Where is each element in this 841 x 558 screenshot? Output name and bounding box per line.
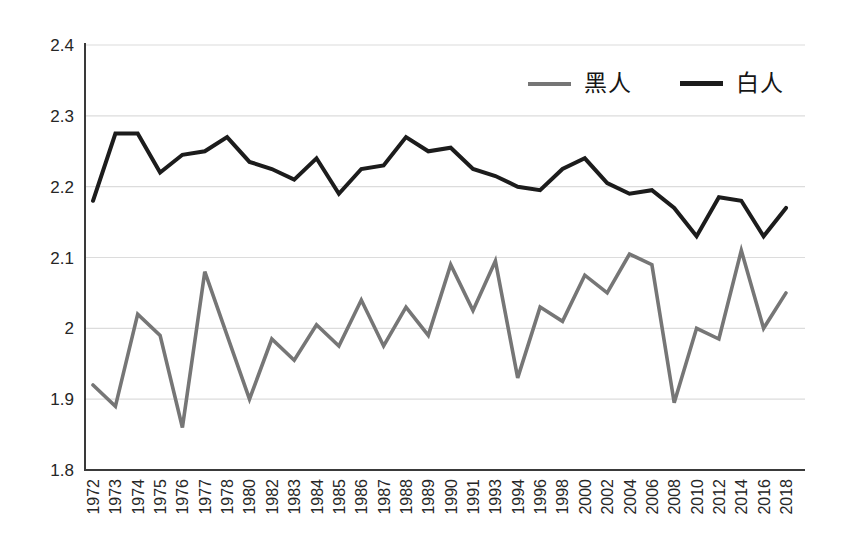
y-axis-tick-label: 2 [65, 319, 74, 338]
x-axis-tick-label: 1972 [85, 479, 102, 515]
x-axis-tick-label: 2014 [733, 479, 750, 515]
legend-line-swatch-gray [528, 82, 571, 86]
x-axis-tick-label: 1983 [286, 479, 303, 515]
x-axis-tick-label: 1989 [420, 479, 437, 515]
x-axis-tick-label: 2018 [778, 479, 795, 515]
legend-label-white-people: 白人 [736, 72, 784, 95]
x-axis-tick-label: 2008 [666, 479, 683, 515]
x-axis-tick-label: 2016 [756, 479, 773, 515]
x-axis-tick-label: 1993 [487, 479, 504, 515]
x-axis-tick-label: 2010 [689, 479, 706, 515]
x-axis-tick-label: 1980 [241, 479, 258, 515]
legend-item-white-people: 白人 [680, 72, 784, 95]
x-axis-tick-label: 1975 [152, 479, 169, 515]
x-axis-tick-label: 1988 [398, 479, 415, 515]
y-axis-tick-label: 1.9 [50, 390, 74, 409]
x-axis-tick-label: 1984 [309, 479, 326, 515]
y-axis-tick-label: 2.2 [50, 178, 74, 197]
series-line-white-people [93, 134, 786, 237]
x-axis-tick-label: 1973 [107, 479, 124, 515]
x-axis-tick-label: 1976 [174, 479, 191, 515]
y-axis-tick-label: 1.8 [50, 461, 74, 480]
x-axis-tick-label: 1987 [376, 479, 393, 515]
legend: 黑人 白人 [528, 72, 784, 95]
x-axis-tick-label: 1977 [197, 479, 214, 515]
x-axis-tick-label: 2012 [711, 479, 728, 515]
y-axis-tick-label: 2.4 [50, 36, 74, 55]
x-axis-tick-label: 1990 [443, 479, 460, 515]
x-axis-tick-label: 2004 [622, 479, 639, 515]
x-axis-tick-label: 1994 [510, 479, 527, 515]
x-axis-tick-label: 1986 [353, 479, 370, 515]
x-axis-tick-label: 1978 [219, 479, 236, 515]
x-axis-tick-label: 1985 [331, 479, 348, 515]
y-axis-tick-label: 2.1 [50, 249, 74, 268]
y-axis-tick-label: 2.3 [50, 107, 74, 126]
x-axis-tick-label: 2006 [644, 479, 661, 515]
chart-page: 1.81.922.12.22.32.4197219731974197519761… [0, 0, 841, 558]
legend-label-black-people: 黑人 [584, 72, 632, 95]
x-axis-tick-label: 2000 [577, 479, 594, 515]
legend-line-swatch-black [680, 81, 723, 86]
x-axis-tick-label: 1996 [532, 479, 549, 515]
x-axis-tick-label: 2002 [599, 479, 616, 515]
x-axis-tick-label: 1998 [554, 479, 571, 515]
series-line-black-people [93, 250, 786, 427]
x-axis-tick-label: 1991 [465, 479, 482, 515]
x-axis-tick-label: 1982 [264, 479, 281, 515]
legend-item-black-people: 黑人 [528, 72, 632, 95]
x-axis-tick-label: 1974 [130, 479, 147, 515]
